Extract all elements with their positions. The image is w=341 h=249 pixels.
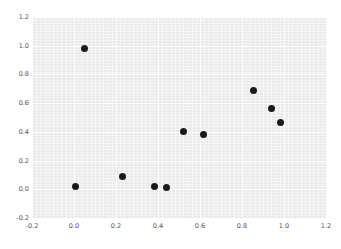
plot-area (32, 17, 326, 218)
minor-gridline-horizontal (32, 69, 326, 70)
minor-gridline-horizontal (32, 34, 326, 35)
minor-gridline-horizontal (32, 115, 326, 116)
data-point (163, 184, 170, 191)
gridline-vertical (242, 17, 243, 218)
x-axis-tick-label: 0.2 (101, 222, 131, 230)
minor-gridline-horizontal (32, 95, 326, 96)
x-axis-tick-label: -0.2 (17, 222, 47, 230)
minor-gridline-horizontal (32, 83, 326, 84)
data-point (119, 173, 126, 180)
gridline-vertical (158, 17, 159, 218)
minor-gridline-horizontal (32, 155, 326, 156)
minor-gridline-horizontal (32, 40, 326, 41)
gridline-horizontal (32, 161, 326, 162)
minor-gridline-horizontal (32, 126, 326, 127)
minor-gridline-horizontal (32, 37, 326, 38)
y-axis-tick-label: 0.2 (5, 157, 29, 165)
minor-gridline-horizontal (32, 175, 326, 176)
minor-gridline-horizontal (32, 49, 326, 50)
minor-gridline-horizontal (32, 54, 326, 55)
minor-gridline-horizontal (32, 72, 326, 73)
y-axis-tick-label: 0.6 (5, 99, 29, 107)
minor-gridline-horizontal (32, 201, 326, 202)
data-point (180, 128, 187, 135)
minor-gridline-horizontal (32, 51, 326, 52)
gridline-vertical (284, 17, 285, 218)
y-axis-tick-label: 1.2 (5, 13, 29, 21)
gridline-horizontal (32, 103, 326, 104)
minor-gridline-horizontal (32, 178, 326, 179)
minor-gridline-horizontal (32, 80, 326, 81)
gridline-horizontal (32, 46, 326, 47)
y-axis-tick-label: 1.0 (5, 42, 29, 50)
minor-gridline-horizontal (32, 152, 326, 153)
minor-gridline-horizontal (32, 89, 326, 90)
minor-gridline-horizontal (32, 163, 326, 164)
minor-gridline-horizontal (32, 158, 326, 159)
x-axis-tick-label: 0.8 (227, 222, 257, 230)
minor-gridline-horizontal (32, 106, 326, 107)
data-point (268, 105, 275, 112)
gridline-horizontal (32, 132, 326, 133)
minor-gridline-horizontal (32, 192, 326, 193)
x-axis-tick-label: 0.4 (143, 222, 173, 230)
minor-gridline-horizontal (32, 23, 326, 24)
minor-gridline-horizontal (32, 129, 326, 130)
x-axis-tick-label: 0.6 (185, 222, 215, 230)
minor-gridline-horizontal (32, 60, 326, 61)
minor-gridline-horizontal (32, 198, 326, 199)
data-point (250, 87, 257, 94)
minor-gridline-horizontal (32, 26, 326, 27)
minor-gridline-horizontal (32, 109, 326, 110)
minor-gridline-horizontal (32, 57, 326, 58)
minor-gridline-horizontal (32, 209, 326, 210)
scatter-plot-figure: -0.20.00.20.40.60.81.01.2-0.20.00.20.40.… (0, 0, 341, 249)
gridline-horizontal (32, 74, 326, 75)
minor-gridline-horizontal (32, 92, 326, 93)
y-axis-tick-label: 0.8 (5, 70, 29, 78)
minor-gridline-horizontal (32, 20, 326, 21)
minor-gridline-horizontal (32, 138, 326, 139)
gridline-vertical (32, 17, 33, 218)
minor-gridline-horizontal (32, 204, 326, 205)
minor-gridline-horizontal (32, 146, 326, 147)
minor-gridline-horizontal (32, 135, 326, 136)
x-axis-tick-label: 0.0 (59, 222, 89, 230)
data-point (200, 131, 207, 138)
minor-gridline-horizontal (32, 166, 326, 167)
minor-gridline-horizontal (32, 100, 326, 101)
minor-gridline-horizontal (32, 43, 326, 44)
y-axis-tick-label: 0.0 (5, 185, 29, 193)
minor-gridline-horizontal (32, 195, 326, 196)
minor-gridline-horizontal (32, 63, 326, 64)
minor-gridline-horizontal (32, 31, 326, 32)
minor-gridline-horizontal (32, 28, 326, 29)
y-axis-tick-label: -0.2 (5, 214, 29, 222)
minor-gridline-horizontal (32, 149, 326, 150)
gridline-vertical (116, 17, 117, 218)
minor-gridline-horizontal (32, 77, 326, 78)
minor-gridline-horizontal (32, 172, 326, 173)
y-axis-tick-label: 0.4 (5, 128, 29, 136)
minor-gridline-horizontal (32, 97, 326, 98)
x-axis-tick-label: 1.2 (311, 222, 341, 230)
minor-gridline-horizontal (32, 112, 326, 113)
minor-gridline-horizontal (32, 86, 326, 87)
minor-gridline-horizontal (32, 212, 326, 213)
gridline-vertical (200, 17, 201, 218)
gridline-horizontal (32, 17, 326, 18)
minor-gridline-horizontal (32, 66, 326, 67)
minor-gridline-horizontal (32, 215, 326, 216)
minor-gridline-horizontal (32, 143, 326, 144)
minor-gridline-horizontal (32, 140, 326, 141)
data-point (72, 183, 79, 190)
x-axis-tick-label: 1.0 (269, 222, 299, 230)
minor-gridline-horizontal (32, 169, 326, 170)
minor-gridline-horizontal (32, 207, 326, 208)
minor-gridline-horizontal (32, 181, 326, 182)
